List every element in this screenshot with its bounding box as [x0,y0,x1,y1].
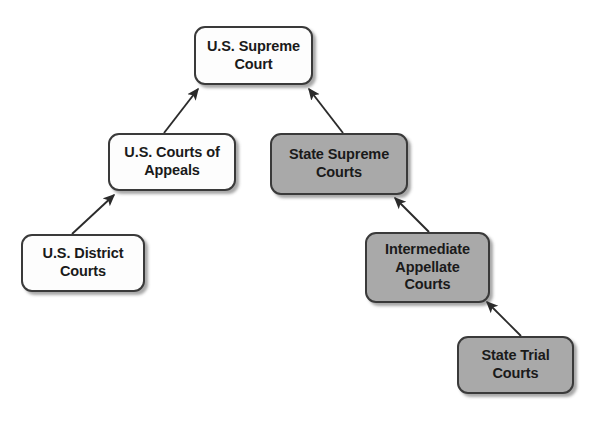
edge-state-supreme-to-us-supreme [309,89,343,133]
node-state-supreme-courts: State Supreme Courts [270,133,408,195]
node-state-trial-courts: State Trial Courts [457,336,574,394]
node-us-courts-of-appeals: U.S. Courts of Appeals [108,133,236,191]
node-intermediate-appellate-courts: Intermediate Appellate Courts [365,232,490,303]
node-us-supreme-court: U.S. Supreme Court [194,26,313,85]
edge-appeals-to-supreme [164,89,198,133]
edge-trial-to-intermediate [487,302,521,336]
edge-district-to-appeals [72,195,114,234]
node-us-district-courts: U.S. District Courts [21,234,145,292]
edge-intermediate-to-state-supreme [395,198,429,232]
court-hierarchy-diagram: U.S. Supreme Court U.S. Courts of Appeal… [0,0,597,430]
